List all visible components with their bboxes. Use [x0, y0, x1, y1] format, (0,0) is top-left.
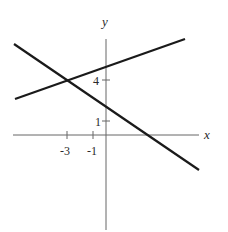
y-axis-label: y	[100, 14, 108, 29]
tick-label-neg1: -1	[87, 144, 97, 158]
rising-line	[15, 39, 185, 99]
coordinate-graph: y x -3 -1 4 1	[0, 0, 228, 232]
tick-label-4: 4	[93, 74, 99, 88]
x-axis-label: x	[203, 127, 210, 142]
tick-label-1: 1	[95, 115, 101, 129]
tick-label-neg3: -3	[60, 144, 70, 158]
